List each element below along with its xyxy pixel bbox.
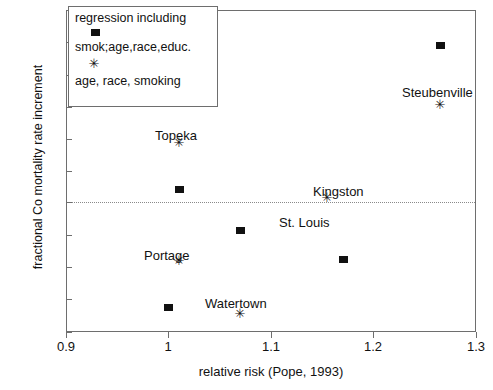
y-tick-mark-0 [66, 202, 72, 203]
y-tick-mark--0.01 [66, 235, 72, 236]
legend-entry-1-line2: smok;age,race,educ. [75, 41, 191, 54]
legend-box: regression including smok;age,race,educ.… [68, 6, 218, 107]
y-tick-mark--0.03 [66, 299, 72, 300]
legend-square-marker [91, 29, 100, 36]
point-label-st-louis: St. Louis [279, 216, 330, 229]
point-label-watertown: Watertown [205, 297, 267, 310]
x-tick-label-1.2: 1.2 [353, 340, 393, 353]
point-label-portage: Portage [144, 249, 190, 262]
data-point-square-2 [175, 186, 184, 193]
y-tick-mark-0.02 [66, 139, 72, 140]
legend-entry-1-line1: regression including [75, 12, 186, 25]
data-point-square-4 [164, 304, 173, 311]
data-point-square-6 [339, 256, 348, 263]
scatter-plot-figure: 0.06 0.05 0.04 0.03 0.02 0.01 0 -0.01 -0… [0, 0, 493, 390]
legend-entry-2-label: age, race, smoking [75, 75, 181, 88]
y-tick-mark--0.02 [66, 267, 72, 268]
x-axis-label: relative risk (Pope, 1993) [66, 364, 476, 379]
x-tick-label-1.1: 1.1 [251, 340, 291, 353]
point-label-steubenville: Steubenville [402, 86, 473, 99]
point-label-topeka: Topeka [155, 129, 197, 142]
x-tick-mark-1.1 [271, 332, 272, 338]
x-tick-label-1.3: 1.3 [456, 340, 493, 353]
data-point-square-3 [436, 42, 445, 49]
y-tick-mark-0.01 [66, 171, 72, 172]
data-point-star-steubenville: ✳ [435, 99, 446, 110]
y-axis-label: fractional Co mortality rate increment [31, 32, 45, 302]
x-tick-mark-1.2 [373, 332, 374, 338]
point-label-kingston: Kingston [313, 185, 364, 198]
x-tick-label-1: 1 [148, 340, 188, 353]
x-tick-mark-0.9 [66, 332, 67, 338]
y-tick-mark-0.03 [66, 107, 72, 108]
x-tick-mark-1.3 [476, 332, 477, 338]
x-tick-mark-1 [168, 332, 169, 338]
data-point-square-5 [236, 227, 245, 234]
x-tick-label-0.9: 0.9 [46, 340, 86, 353]
zero-reference-line [67, 202, 475, 203]
legend-star-marker: ✳ [88, 58, 100, 70]
